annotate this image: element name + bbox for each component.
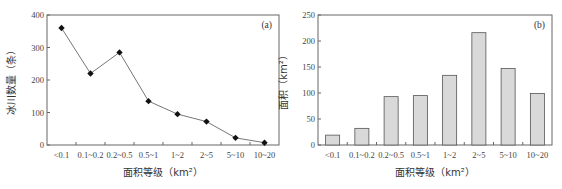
x-axis-label: 面积等级（km²） — [123, 166, 203, 178]
x-tick-label: <0.1 — [325, 150, 340, 160]
data-point-marker — [145, 98, 151, 104]
bar — [355, 128, 369, 145]
y-tick-label: 200 — [302, 36, 315, 46]
x-tick-label: 0.2~0.5 — [378, 150, 404, 160]
x-tick-label: 10~20 — [254, 150, 276, 160]
y-tick-label: 100 — [302, 88, 315, 98]
panel-label: (b) — [534, 20, 545, 31]
bar — [384, 97, 398, 145]
x-tick-label: 0.1~0.2 — [78, 150, 104, 160]
chart-b: 050100150200250<0.10.1~0.20.2~0.50.5~11~… — [278, 10, 552, 178]
data-point-marker — [232, 135, 238, 141]
x-tick-label: 5~10 — [499, 150, 516, 160]
x-tick-label: 0.1~0.2 — [349, 150, 375, 160]
y-tick-label: 100 — [31, 108, 44, 118]
y-axis-label: 冰川数量（条） — [5, 45, 17, 115]
y-tick-label: 300 — [31, 43, 44, 53]
x-tick-label: 0.5~1 — [139, 150, 158, 160]
bar — [443, 75, 457, 145]
x-tick-label: 10~20 — [527, 150, 549, 160]
y-tick-label: 150 — [302, 62, 315, 72]
data-line — [62, 28, 265, 143]
chart-a: 0100200300400<0.10.1~0.20.2~0.50.5~11~22… — [5, 10, 279, 178]
data-point-marker — [58, 25, 64, 31]
bar — [472, 33, 486, 145]
data-point-marker — [203, 118, 209, 124]
bar — [326, 135, 340, 145]
panel-label: (a) — [261, 20, 272, 31]
y-tick-label: 200 — [31, 75, 44, 85]
x-axis-label: 面积等级（km²） — [395, 166, 475, 178]
data-point-marker — [174, 111, 180, 117]
bar — [501, 69, 515, 145]
y-tick-label: 400 — [31, 10, 44, 20]
y-tick-label: 0 — [311, 140, 315, 150]
x-tick-label: 5~10 — [227, 150, 244, 160]
x-tick-label: 1~2 — [171, 150, 184, 160]
x-tick-label: 0.2~0.5 — [107, 150, 133, 160]
bar — [413, 96, 427, 145]
x-tick-label: 2~5 — [472, 150, 485, 160]
x-tick-label: 0.5~1 — [411, 150, 430, 160]
x-tick-label: <0.1 — [54, 150, 69, 160]
chart-canvas: 0100200300400<0.10.1~0.20.2~0.50.5~11~22… — [0, 0, 562, 189]
x-tick-label: 2~5 — [200, 150, 213, 160]
y-tick-label: 50 — [307, 114, 316, 124]
bar — [530, 94, 544, 145]
y-axis-label: 面积（km²） — [278, 50, 289, 110]
plot-frame — [318, 15, 552, 145]
y-tick-label: 0 — [40, 140, 44, 150]
y-tick-label: 250 — [302, 10, 315, 20]
x-tick-label: 1~2 — [443, 150, 456, 160]
plot-frame — [47, 15, 279, 145]
